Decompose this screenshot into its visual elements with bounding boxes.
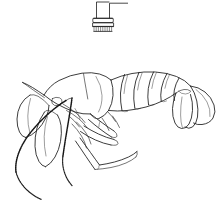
drawing-page — [0, 0, 224, 210]
line-drawing-canvas — [0, 0, 224, 210]
inset-setae-fringe — [93, 27, 112, 32]
